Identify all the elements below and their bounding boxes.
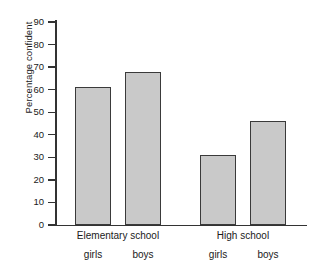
plot-area [55, 22, 303, 225]
bar-label-3: boys [238, 249, 298, 260]
y-tick-label-40: 40 [20, 130, 44, 140]
y-tick-90 [48, 21, 55, 22]
y-tick-50 [48, 112, 55, 113]
y-tick-80 [48, 44, 55, 45]
y-tick-label-70: 70 [20, 62, 44, 72]
bar-elementary-school-boys [125, 72, 161, 225]
bar-label-1: boys [113, 249, 173, 260]
y-tick-0 [48, 224, 55, 225]
y-tick-label-20: 20 [20, 175, 44, 185]
y-tick-30 [48, 157, 55, 158]
bar-high-school-boys [250, 121, 286, 225]
y-tick-label-0: 0 [20, 220, 44, 230]
y-tick-label-10: 10 [20, 197, 44, 207]
y-tick-label-90: 90 [20, 17, 44, 27]
y-tick-label-80: 80 [20, 40, 44, 50]
bar-high-school-girls [200, 155, 236, 225]
y-tick-label-30: 30 [20, 152, 44, 162]
y-tick-40 [48, 134, 55, 135]
group-label-elementary-school: Elementary school [55, 230, 181, 241]
bar-chart: Percentage confident 9080706050403020100… [0, 0, 316, 272]
bar-elementary-school-girls [75, 87, 111, 225]
y-tick-10 [48, 202, 55, 203]
y-tick-70 [48, 66, 55, 67]
y-tick-20 [48, 179, 55, 180]
group-label-high-school: High school [180, 230, 306, 241]
y-tick-label-50: 50 [20, 107, 44, 117]
y-tick-label-60: 60 [20, 85, 44, 95]
y-tick-60 [48, 89, 55, 90]
